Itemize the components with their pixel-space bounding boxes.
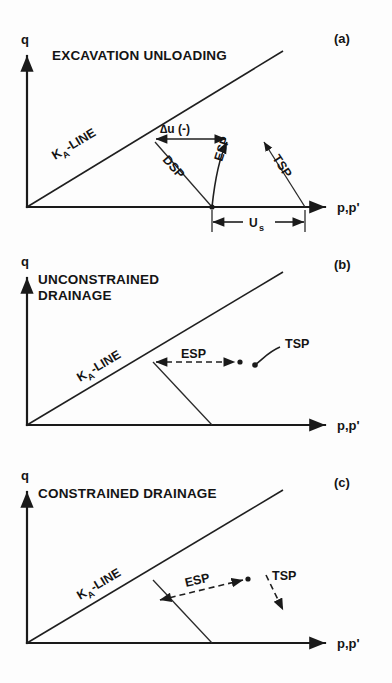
panel-a-chart: q p,p' (a) EXCAVATION UNLOADING K A -LIN…	[0, 0, 392, 232]
delta-u-label: ∆u (-)	[160, 122, 190, 136]
tsp-label-c: TSP	[272, 569, 296, 583]
dsp-label: DSP	[160, 153, 187, 182]
esp-endpoint-dot	[245, 576, 250, 581]
ka-line	[27, 490, 283, 643]
panel-c: q p,p' (c) CONSTRAINED DRAINAGE K A -LIN…	[0, 450, 392, 683]
stress-point-marker	[209, 204, 214, 209]
us-label-sub: s	[259, 223, 264, 232]
panel-b: q p,p' (b) UNCONSTRAINED DRAINAGE K A -L…	[0, 232, 392, 450]
ka-line-label-tail: -LINE	[63, 126, 98, 155]
esp-label-b: ESP	[181, 347, 206, 361]
y-axis-label: q	[21, 468, 29, 483]
y-axis-label: q	[21, 254, 29, 269]
panel-c-title: CONSTRAINED DRAINAGE	[38, 486, 217, 501]
y-axis-label: q	[21, 32, 29, 47]
x-axis-label: p,p'	[337, 418, 360, 433]
x-axis-label: p,p'	[337, 200, 360, 215]
ka-line-label-group: K A -LINE	[49, 126, 99, 166]
panel-a-title: EXCAVATION UNLOADING	[52, 48, 227, 63]
esp-endpoint-dot	[237, 359, 242, 364]
panel-b-title-line2: DRAINAGE	[38, 288, 112, 303]
tsp-leader-line	[256, 347, 280, 364]
x-axis-label: p,p'	[337, 636, 360, 651]
panel-tag-b: (b)	[334, 257, 351, 272]
panel-b-title-line1: UNCONSTRAINED	[38, 272, 159, 287]
ka-line-label-tail: -LINE	[88, 348, 123, 377]
panel-a: q p,p' (a) EXCAVATION UNLOADING K A -LIN…	[0, 0, 392, 232]
tsp-label-b: TSP	[285, 337, 309, 351]
panel-tag-a: (a)	[334, 31, 350, 46]
figure-page: q p,p' (a) EXCAVATION UNLOADING K A -LIN…	[0, 0, 392, 683]
panel-c-chart: q p,p' (c) CONSTRAINED DRAINAGE K A -LIN…	[0, 450, 392, 683]
ka-line	[27, 51, 283, 207]
panel-b-chart: q p,p' (b) UNCONSTRAINED DRAINAGE K A -L…	[0, 232, 392, 450]
ka-line-label-tail: -LINE	[88, 566, 123, 595]
us-label-group: U s	[249, 216, 264, 232]
panel-tag-c: (c)	[334, 475, 350, 490]
unloading-path-line	[153, 362, 212, 425]
esp-label-c: ESP	[184, 571, 212, 590]
tsp-label-a: TSP	[269, 152, 294, 180]
us-label-main: U	[249, 216, 258, 230]
